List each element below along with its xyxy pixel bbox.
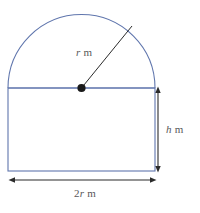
width-symbol: r [80, 187, 84, 199]
height-label: h m [166, 124, 183, 135]
centre-point-dot [77, 84, 85, 92]
width-dimension-arrow [9, 177, 157, 182]
radius-label: r m [76, 47, 92, 58]
width-unit: m [87, 187, 96, 199]
height-dimension-arrow [155, 87, 160, 173]
height-symbol: h [166, 123, 172, 135]
rectangle-body [8, 88, 155, 171]
width-label: 2r m [74, 188, 96, 199]
height-unit: m [175, 123, 184, 135]
figure-container: r m h m 2r m [0, 0, 200, 213]
radius-unit: m [83, 46, 92, 58]
radius-symbol: r [76, 46, 80, 58]
geometry-diagram [0, 0, 200, 213]
